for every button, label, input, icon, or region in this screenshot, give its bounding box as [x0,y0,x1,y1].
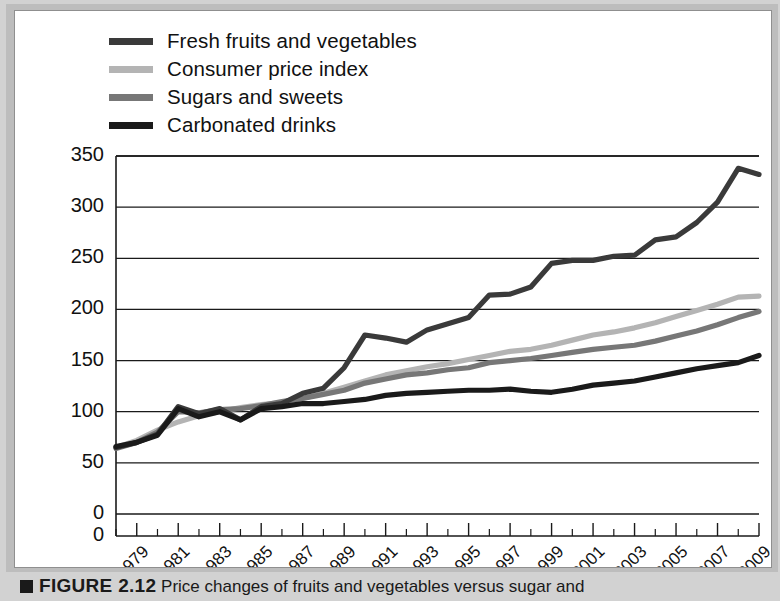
figure-panel: Fresh fruits and vegetablesConsumer pric… [0,0,780,601]
figure-caption-label: FIGURE 2.12 [39,575,156,596]
y-axis-tick-label: 350 [44,143,104,166]
y-axis-tick-label: 0 [44,501,104,524]
plot-area: Price index (1982–1984=100) 050100150200… [15,11,772,568]
line-chart-svg [15,11,772,568]
data-series-line [116,168,759,447]
y-axis-tick-label: 50 [44,450,104,473]
y-axis-tick-label: 200 [44,296,104,319]
figure-caption: FIGURE 2.12 Price changes of fruits and … [20,575,584,597]
y-axis-tick-label: 150 [44,348,104,371]
y-axis-tick-label: 300 [44,194,104,217]
y-axis-tick-label: 250 [44,245,104,268]
figure-content-area: Fresh fruits and vegetablesConsumer pric… [14,10,772,568]
square-marker-icon [20,580,33,593]
y-axis-tick-label: 100 [44,399,104,422]
figure-caption-bar: FIGURE 2.12 Price changes of fruits and … [14,572,772,601]
y-axis-origin-label: 0 [44,523,104,546]
figure-caption-body: Price changes of fruits and vegetables v… [161,577,584,596]
data-series-line [116,311,759,448]
